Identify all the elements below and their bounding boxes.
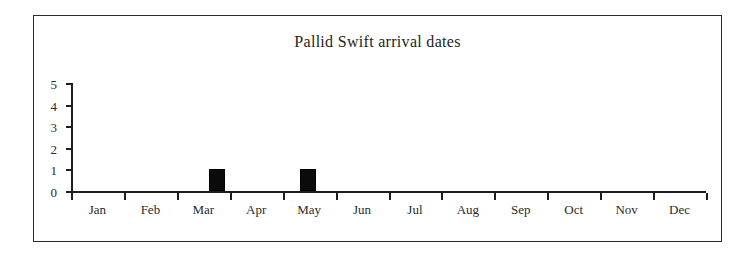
y-tick-4: 4 <box>66 105 72 107</box>
y-tick-label: 0 <box>51 186 58 199</box>
x-tick <box>336 193 338 200</box>
x-tick <box>230 193 232 200</box>
x-tick <box>177 193 179 200</box>
x-axis-label-jul: Jul <box>407 203 422 216</box>
bar-may <box>300 169 316 191</box>
x-tick <box>71 193 73 200</box>
x-axis-label-dec: Dec <box>669 203 690 216</box>
x-tick <box>653 193 655 200</box>
y-tick-label: 1 <box>51 164 58 177</box>
x-axis-label-jun: Jun <box>353 203 371 216</box>
x-axis-label-apr: Apr <box>246 203 266 216</box>
y-tick-label: 4 <box>51 99 58 112</box>
y-tick-label: 5 <box>51 78 58 91</box>
x-axis-label-oct: Oct <box>564 203 583 216</box>
y-tick-1: 1 <box>66 169 72 171</box>
y-tick-label: 3 <box>51 121 58 134</box>
x-axis-label-aug: Aug <box>457 203 479 216</box>
chart-title: Pallid Swift arrival dates <box>34 33 721 51</box>
x-tick <box>547 193 549 200</box>
y-tick-3: 3 <box>66 126 72 128</box>
y-tick-label: 2 <box>51 142 58 155</box>
chart-frame: Pallid Swift arrival dates 543210 JanFeb… <box>33 15 722 242</box>
x-axis-label-jan: Jan <box>89 203 106 216</box>
y-axis-line <box>71 83 73 191</box>
x-axis-label-nov: Nov <box>615 203 637 216</box>
x-tick <box>441 193 443 200</box>
y-tick-2: 2 <box>66 148 72 150</box>
x-tick <box>600 193 602 200</box>
x-axis-label-may: May <box>297 203 321 216</box>
y-tick-5: 5 <box>66 83 72 85</box>
x-axis-label-feb: Feb <box>141 203 161 216</box>
x-tick <box>706 193 708 200</box>
x-axis-label-sep: Sep <box>511 203 531 216</box>
x-axis-label-mar: Mar <box>192 203 214 216</box>
x-tick <box>389 193 391 200</box>
x-tick <box>124 193 126 200</box>
x-tick <box>283 193 285 200</box>
x-tick <box>494 193 496 200</box>
bar-mar <box>209 169 225 191</box>
plot-area: 543210 JanFebMarAprMayJunJulAugSepOctNov… <box>71 83 706 191</box>
